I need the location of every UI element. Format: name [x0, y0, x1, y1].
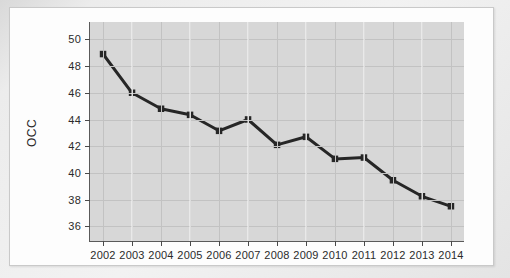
x-axis-tick-label: 2009: [293, 249, 318, 261]
y-axis-tick-label: 46: [68, 87, 81, 99]
y-axis-tick: [85, 93, 90, 94]
gridline-vertical: [161, 22, 162, 241]
x-axis-tick-label: 2002: [90, 249, 115, 261]
x-axis-tick-label: 2012: [380, 249, 405, 261]
gridline-vertical: [451, 22, 452, 241]
x-axis-tick: [393, 241, 394, 246]
x-axis-tick-label: 2004: [148, 249, 173, 261]
y-axis-tick-label: 40: [68, 167, 81, 179]
x-axis-tick-label: 2007: [235, 249, 260, 261]
x-axis-tick-label: 2014: [438, 249, 463, 261]
plot-area: 3638404244464850200220032004200520062007…: [89, 22, 464, 242]
y-axis-tick: [85, 173, 90, 174]
gridline-vertical: [103, 22, 104, 241]
gridline-vertical: [277, 22, 278, 241]
x-axis-tick: [422, 241, 423, 246]
y-axis-tick-label: 48: [68, 60, 81, 72]
x-axis-tick-label: 2013: [409, 249, 434, 261]
x-axis-tick: [161, 241, 162, 246]
x-axis-tick: [306, 241, 307, 246]
y-axis-tick-label: 50: [68, 33, 81, 45]
scan-band: [247, 22, 249, 241]
x-axis-tick: [451, 241, 452, 246]
y-axis-title: OCC: [25, 119, 39, 147]
y-axis-tick: [85, 39, 90, 40]
x-axis-tick: [364, 241, 365, 246]
x-axis-tick-label: 2005: [177, 249, 202, 261]
x-axis-tick-label: 2008: [264, 249, 289, 261]
y-axis-tick-label: 42: [68, 140, 81, 152]
x-axis-tick-label: 2011: [352, 249, 376, 261]
y-axis-tick: [85, 66, 90, 67]
scan-band: [305, 22, 307, 241]
y-axis-tick: [85, 200, 90, 201]
gridline-vertical: [335, 22, 336, 241]
scan-band: [131, 22, 133, 241]
y-axis-tick: [85, 120, 90, 121]
y-axis-tick-label: 44: [68, 114, 81, 126]
x-axis-tick-label: 2010: [322, 249, 347, 261]
scanned-page-background: OCC 363840424446485020022003200420052006…: [0, 0, 510, 278]
y-axis-tick: [85, 146, 90, 147]
y-axis-tick-label: 38: [68, 194, 81, 206]
gridline-vertical: [219, 22, 220, 241]
x-axis-tick-label: 2006: [206, 249, 231, 261]
scan-band: [421, 22, 423, 241]
scan-band: [363, 22, 365, 241]
x-axis-tick: [248, 241, 249, 246]
gridline-vertical: [393, 22, 394, 241]
x-axis-tick: [103, 241, 104, 246]
x-axis-tick: [132, 241, 133, 246]
x-axis-tick: [190, 241, 191, 246]
x-axis-tick: [335, 241, 336, 246]
x-axis-tick: [277, 241, 278, 246]
x-axis-tick-label: 2003: [119, 249, 144, 261]
scan-band: [189, 22, 191, 241]
chart-paper: OCC 363840424446485020022003200420052006…: [9, 7, 494, 266]
line-chart-figure: OCC 363840424446485020022003200420052006…: [10, 8, 493, 265]
y-axis-tick-label: 36: [68, 220, 81, 232]
y-axis-tick: [85, 226, 90, 227]
x-axis-tick: [219, 241, 220, 246]
